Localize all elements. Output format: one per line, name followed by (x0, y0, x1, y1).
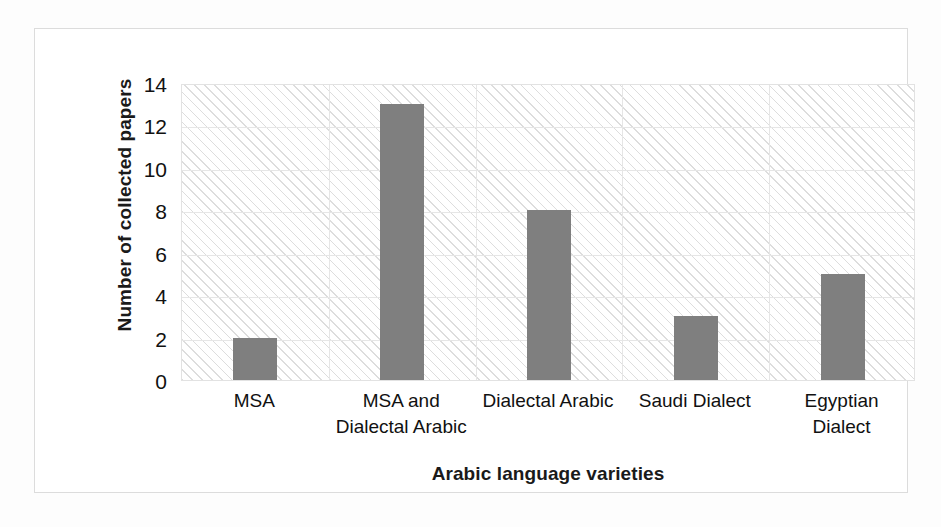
y-axis-tick-label: 10 (121, 159, 167, 180)
y-axis-tick-label: 8 (121, 201, 167, 222)
x-axis-tick-label: MSA andDialectal Arabic (328, 388, 475, 458)
gridline-horizontal (182, 170, 914, 171)
gridline-vertical (476, 85, 477, 380)
gridline-vertical (329, 85, 330, 380)
figure-root: Number of collected papers 14121086420 M… (0, 0, 941, 527)
y-axis-tick-label: 14 (121, 74, 167, 95)
gridline-vertical (622, 85, 623, 380)
x-axis-tick-label: EgyptianDialect (768, 388, 915, 458)
bar-1 (380, 104, 424, 380)
bar-0 (233, 338, 277, 380)
bar-4 (821, 274, 865, 380)
gridline-horizontal (182, 127, 914, 128)
plot-area (181, 84, 915, 381)
gridline-vertical (769, 85, 770, 380)
bar-2 (527, 210, 571, 380)
x-axis-tick-label-line: Dialectal Arabic (330, 414, 473, 440)
x-axis-tick-label: MSA (181, 388, 328, 458)
y-axis-tick-label: 6 (121, 244, 167, 265)
y-axis-tick-label: 12 (121, 116, 167, 137)
y-axis-tick-labels: 14121086420 (121, 75, 167, 395)
x-axis-tick-label-line: Dialectal Arabic (477, 388, 620, 414)
x-axis-tick-label: Saudi Dialect (621, 388, 768, 458)
x-axis-tick-label-line: MSA and (330, 388, 473, 414)
y-axis-tick-label: 4 (121, 286, 167, 307)
chart-frame: Number of collected papers 14121086420 M… (34, 28, 908, 493)
y-axis-tick-label: 0 (121, 371, 167, 392)
x-axis-tick-label-line: Egyptian (770, 388, 913, 414)
x-axis-category-labels: MSAMSA andDialectal ArabicDialectal Arab… (181, 388, 915, 458)
x-axis-tick-label-line: Saudi Dialect (623, 388, 766, 414)
y-axis-tick-label: 2 (121, 329, 167, 350)
x-axis-tick-label: Dialectal Arabic (475, 388, 622, 458)
bar-3 (674, 316, 718, 380)
x-axis-tick-label-line: Dialect (770, 414, 913, 440)
x-axis-tick-label-line: MSA (183, 388, 326, 414)
x-axis-title: Arabic language varieties (181, 463, 915, 485)
